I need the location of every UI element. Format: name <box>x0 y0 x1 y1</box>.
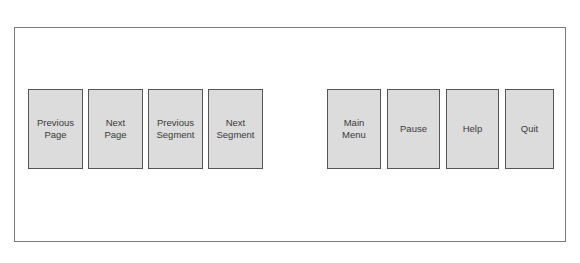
pause-label: Pause <box>400 123 427 135</box>
next-page-button[interactable]: Next Page <box>88 89 143 169</box>
pause-button[interactable]: Pause <box>387 89 440 169</box>
previous-page-button[interactable]: Previous Page <box>28 89 83 169</box>
help-label: Help <box>463 123 483 135</box>
previous-segment-label: Previous Segment <box>156 117 194 141</box>
previous-page-label: Previous Page <box>37 117 74 141</box>
quit-label: Quit <box>521 123 538 135</box>
next-segment-button[interactable]: Next Segment <box>208 89 263 169</box>
quit-button[interactable]: Quit <box>505 89 554 169</box>
next-segment-label: Next Segment <box>216 117 254 141</box>
previous-segment-button[interactable]: Previous Segment <box>148 89 203 169</box>
help-button[interactable]: Help <box>446 89 499 169</box>
next-page-label: Next Page <box>104 117 126 141</box>
main-menu-button[interactable]: Main Menu <box>327 89 381 169</box>
main-menu-label: Main Menu <box>342 117 366 141</box>
